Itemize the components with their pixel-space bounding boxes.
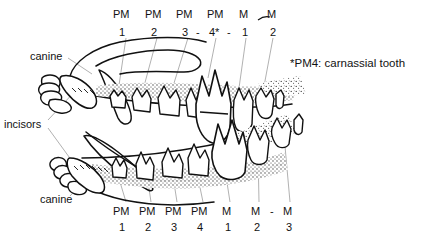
upper-label-pm4-num: 4* [209, 26, 219, 38]
lower-label-pm4-abbr: PM [191, 205, 208, 217]
lower-label-m2-abbr: M [251, 205, 260, 217]
upper-label-pm1-num: 1 [119, 26, 125, 38]
dentition-figure: PM 1 PM 2 PM 3 - PM 4* - M 1 M 2 PM 1 PM… [0, 0, 425, 236]
upper-label-m2-num: 2 [270, 26, 276, 38]
lower-label-pm2-num: 2 [145, 221, 151, 233]
upper-label-sep-1: - [196, 26, 200, 38]
upper-label-sep-2: - [227, 26, 231, 38]
lower-label-pm3-abbr: PM [165, 205, 182, 217]
lower-label-m3-abbr: M [283, 205, 292, 217]
upper-carnassial-pm4 [196, 70, 231, 143]
lower-label-m2-num: 2 [254, 221, 260, 233]
upper-label-pm2-num: 2 [151, 26, 157, 38]
lower-label-pm3-num: 3 [171, 221, 177, 233]
lower-label-pm1-num: 1 [119, 221, 125, 233]
upper-label-m1-abbr: M [239, 8, 248, 20]
lower-label-pm4-num: 4 [197, 221, 203, 233]
upper-label-pm4-abbr: PM [207, 8, 224, 20]
lower-label-sep-1: - [270, 205, 274, 217]
upper-label-pm3-abbr: PM [176, 8, 193, 20]
footnote-carnassial: *PM4: carnassial tooth [290, 57, 405, 70]
lower-label-pm1-abbr: PM [113, 205, 130, 217]
lower-label-m1-num: 1 [225, 221, 231, 233]
upper-label-m2-abbr: M [267, 8, 276, 20]
upper-label-m1-num: 1 [242, 26, 248, 38]
upper-label-pm3-num: 3 [182, 26, 188, 38]
lower-label-m1-abbr: M [222, 205, 231, 217]
label-canine-upper: canine [30, 50, 62, 62]
label-canine-lower: canine [40, 193, 72, 205]
lower-label-pm2-abbr: PM [139, 205, 156, 217]
upper-label-pm1-abbr: PM [113, 8, 130, 20]
upper-label-pm2-abbr: PM [145, 8, 162, 20]
lower-label-m3-num: 3 [286, 221, 292, 233]
label-incisors: incisors [4, 118, 41, 130]
